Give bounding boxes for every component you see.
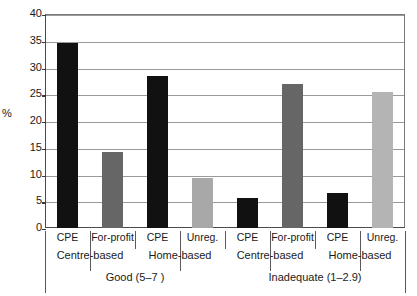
- axis-separator: [135, 231, 136, 249]
- y-axis-tick-label: 25: [18, 88, 42, 99]
- y-axis-tickmark: [42, 69, 46, 70]
- x-axis-setting-label: Centre-based: [225, 249, 315, 261]
- x-axis-setting-label: Home-based: [135, 249, 225, 261]
- y-axis-tick-label: 30: [18, 62, 42, 73]
- y-axis-tickmark: [42, 95, 46, 96]
- y-axis-tick-label: 40: [18, 8, 42, 19]
- x-axis-setting-label: Home-based: [315, 249, 405, 261]
- x-axis-series-label: For-profit: [90, 231, 135, 243]
- y-axis-tickmark: [42, 42, 46, 43]
- x-axis-labels: CPEFor-profitCPEUnreg.CPEFor-profitCPEUn…: [45, 228, 405, 294]
- x-axis-series-label: CPE: [225, 231, 270, 243]
- axis-separator: [45, 231, 46, 293]
- axis-separator: [315, 231, 316, 249]
- x-axis-series-label: CPE: [135, 231, 180, 243]
- y-axis-tickmark: [42, 149, 46, 150]
- gridline: [46, 95, 404, 96]
- y-axis-tick-label: 5: [18, 195, 42, 206]
- y-axis-tick-label: 0: [18, 222, 42, 233]
- y-axis-tick-label: 20: [18, 115, 42, 126]
- x-axis-series-label: CPE: [315, 231, 360, 243]
- y-axis-tick-label: 35: [18, 35, 42, 46]
- plot-area: [45, 14, 405, 228]
- y-axis-tickmark: [42, 15, 46, 16]
- y-axis-tick-labels: 4035302520151050: [18, 0, 42, 296]
- x-axis-series-label: For-profit: [270, 231, 315, 243]
- x-axis-quality-label: Inadequate (1–2.9): [225, 271, 405, 283]
- x-axis-series-label: Unreg.: [180, 231, 225, 243]
- y-axis-tick-label: 15: [18, 142, 42, 153]
- y-axis-tickmark: [42, 122, 46, 123]
- gridline: [46, 15, 404, 16]
- y-axis-tickmark: [42, 176, 46, 177]
- gridline: [46, 176, 404, 177]
- gridline: [46, 149, 404, 150]
- y-axis-title: %: [2, 108, 12, 119]
- bar-chart: % 4035302520151050 CPEFor-profitCPEUnreg…: [0, 0, 417, 296]
- gridline: [46, 122, 404, 123]
- x-axis-setting-label: Centre-based: [45, 249, 135, 261]
- y-axis-tickmark: [42, 202, 46, 203]
- axis-separator: [225, 231, 226, 249]
- axis-separator: [405, 231, 406, 293]
- x-axis-series-label: CPE: [45, 231, 90, 243]
- gridline: [46, 69, 404, 70]
- gridline: [46, 42, 404, 43]
- gridline: [46, 202, 404, 203]
- x-axis-series-label: Unreg.: [360, 231, 405, 243]
- y-axis-tick-label: 10: [18, 169, 42, 180]
- x-axis-quality-label: Good (5–7 ): [45, 271, 225, 283]
